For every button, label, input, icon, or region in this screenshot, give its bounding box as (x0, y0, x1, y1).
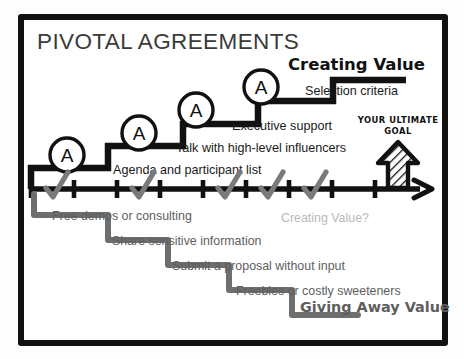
step-label-2: Talk with high-level influencers (176, 141, 346, 155)
diagram-canvas: PIVOTAL AGREEMENTS Creating Value Agenda… (0, 0, 464, 359)
lower-step-label-2: Share sensitive information (112, 234, 262, 248)
agreement-marker-4-label: A (255, 77, 268, 98)
step-label-2-text: Talk with high-level influencers (176, 141, 346, 155)
creating-value-question: Creating Value? (281, 211, 369, 225)
lower-heading: Giving Away Value (300, 299, 450, 315)
lower-step-label-4-text: Freebies or costly sweeteners (236, 284, 401, 298)
ultimate-goal-line2: GOAL (384, 126, 412, 136)
step-label-4: Selection criteria (305, 84, 398, 98)
agreement-marker-2-label: A (133, 123, 146, 144)
agreement-marker-4[interactable]: A (244, 70, 278, 104)
agreement-marker-1[interactable]: A (50, 138, 84, 172)
lower-step-label-3: Submit a proposal without input (172, 259, 345, 273)
agreement-marker-3[interactable]: A (179, 93, 213, 127)
lower-step-label-4: Freebies or costly sweeteners (236, 284, 401, 298)
lower-step-label-3-text: Submit a proposal without input (172, 259, 345, 273)
ultimate-goal-line1: YOUR ULTIMATE (357, 115, 439, 125)
step-label-3-text: Executive support (232, 119, 333, 133)
step-label-4-text: Selection criteria (305, 84, 398, 98)
lower-step-label-1: Free demos or consulting (52, 209, 192, 223)
step-label-3: Executive support (232, 119, 333, 133)
agreement-marker-1-label: A (61, 145, 74, 166)
page-title: PIVOTAL AGREEMENTS (37, 29, 299, 54)
upper-heading: Creating Value (288, 55, 425, 74)
agreement-marker-2[interactable]: A (122, 116, 156, 150)
lower-step-label-1-text: Free demos or consulting (52, 209, 192, 223)
lower-step-label-2-text: Share sensitive information (112, 234, 262, 248)
agreement-marker-3-label: A (190, 100, 203, 121)
